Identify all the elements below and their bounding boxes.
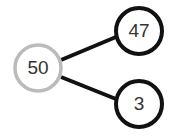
whole-value: 50 [14, 44, 62, 92]
part-value-top: 47 [115, 7, 163, 55]
connector-line-bottom [61, 77, 116, 99]
part-value-bottom: 3 [115, 80, 163, 128]
connector-line-top [61, 37, 116, 60]
